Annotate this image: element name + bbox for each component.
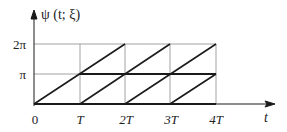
x-tick-T: T [76, 112, 84, 127]
x-axis-label: t [264, 110, 269, 125]
axes [31, 10, 275, 107]
y-tick-pi: π [19, 67, 26, 82]
y-axis-label: ψ (t; ξ) [41, 7, 80, 23]
x-tick-0: 0 [32, 112, 39, 127]
y-tick-2pi: 2π [13, 37, 27, 52]
phase-diagram: ψ (t; ξ) 2π π 0 T 2T 3T 4T t [0, 0, 287, 132]
x-axis-arrow-icon [265, 101, 275, 107]
x-tick-4T: 4T [209, 112, 224, 127]
x-tick-3T: 3T [163, 112, 179, 127]
x-tick-2T: 2T [119, 112, 134, 127]
y-axis-arrow-icon [31, 10, 37, 19]
